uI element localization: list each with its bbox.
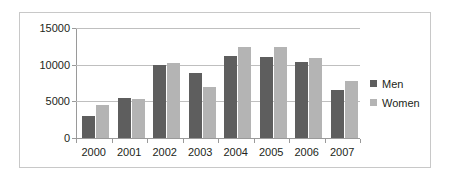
- x-axis-tick-label: 2002: [147, 146, 183, 159]
- y-axis-tick-label: 10000: [39, 60, 70, 71]
- x-axis-tick-label: 2005: [253, 146, 289, 159]
- x-tick-mark: [289, 139, 290, 143]
- legend-item-men: Men: [370, 74, 428, 93]
- x-tick-mark: [218, 139, 219, 143]
- x-axis-tick-label: 2007: [324, 146, 360, 159]
- bar-men-2000: [82, 116, 95, 138]
- y-axis-tick-label: 15000: [39, 23, 70, 34]
- bar-women-2002: [167, 63, 180, 138]
- legend-swatch-icon-women: [370, 99, 377, 106]
- legend-label-men: Men: [382, 78, 403, 90]
- legend-item-women: Women: [370, 93, 428, 112]
- x-tick-mark: [112, 139, 113, 143]
- x-tick-mark: [76, 139, 77, 143]
- bar-women-2004: [238, 47, 251, 138]
- y-tick-mark: [72, 65, 76, 66]
- y-axis-labels: 15000 10000 5000 0: [20, 28, 70, 139]
- bar-women-2000: [96, 105, 109, 138]
- x-tick-mark: [183, 139, 184, 143]
- y-tick-mark: [72, 28, 76, 29]
- bar-women-2005: [274, 47, 287, 138]
- bar-men-2005: [260, 57, 273, 138]
- x-axis-ticks: [76, 139, 360, 144]
- bar-women-2007: [345, 81, 358, 138]
- x-axis-tick-label: 2004: [218, 146, 254, 159]
- y-axis-line: [76, 28, 77, 139]
- chart-frame: 15000 10000 5000 0 200020012002200320042…: [19, 12, 431, 168]
- chart-legend: Men Women: [370, 74, 428, 112]
- x-axis-tick-label: 2000: [76, 146, 112, 159]
- bar-men-2001: [118, 98, 131, 138]
- bar-women-2006: [309, 58, 322, 138]
- legend-swatch-icon-men: [370, 80, 377, 87]
- x-tick-mark: [360, 139, 361, 143]
- bar-women-2001: [132, 99, 145, 138]
- x-axis-tick-label: 2006: [289, 146, 325, 159]
- x-axis-labels: 20002001200220032004200520062007: [76, 146, 360, 162]
- bar-men-2003: [189, 73, 202, 138]
- x-tick-mark: [325, 139, 326, 143]
- bar-men-2006: [295, 62, 308, 138]
- x-tick-mark: [254, 139, 255, 143]
- plot-area: [76, 28, 360, 139]
- bar-women-2003: [203, 87, 216, 138]
- legend-label-women: Women: [382, 97, 420, 109]
- bar-men-2007: [331, 90, 344, 138]
- bar-men-2002: [153, 65, 166, 138]
- y-axis-tick-label: 0: [64, 133, 70, 144]
- x-axis-tick-label: 2003: [182, 146, 218, 159]
- y-axis-tick-label: 5000: [46, 96, 70, 107]
- y-tick-mark: [72, 101, 76, 102]
- x-axis-tick-label: 2001: [111, 146, 147, 159]
- x-tick-mark: [147, 139, 148, 143]
- gridline-15000: [76, 28, 360, 29]
- bar-men-2004: [224, 56, 237, 138]
